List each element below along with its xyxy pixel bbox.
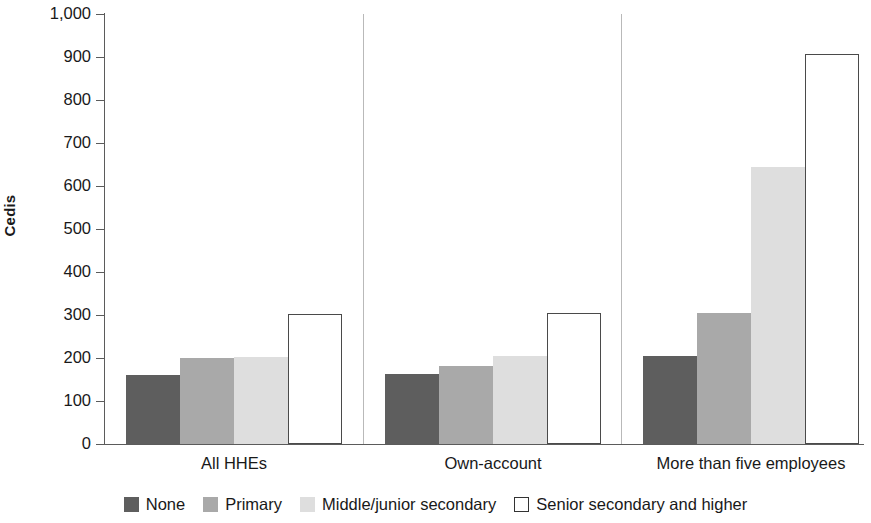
y-axis-tick-mark <box>96 315 104 316</box>
bar[interactable] <box>126 375 180 444</box>
y-axis-tick-label: 300 <box>63 304 91 324</box>
y-axis-tick-label: 900 <box>63 46 91 66</box>
legend-item[interactable]: Middle/junior secondary <box>300 494 496 514</box>
bar-group <box>126 14 342 444</box>
y-axis-tick-label: 600 <box>63 175 91 195</box>
plot-area: 01002003004005006007008009001,000 <box>104 14 864 444</box>
bar[interactable] <box>385 374 439 444</box>
y-axis-tick-mark <box>96 401 104 402</box>
y-axis-tick-mark <box>96 229 104 230</box>
legend-label: Senior secondary and higher <box>536 494 747 514</box>
x-axis-line <box>104 444 864 445</box>
legend-label: Middle/junior secondary <box>322 494 496 514</box>
bar-group <box>385 14 601 444</box>
x-axis-labels: All HHEsOwn-accountMore than five employ… <box>104 452 864 478</box>
bar-chart-figure: Cedis 01002003004005006007008009001,000 … <box>0 0 871 523</box>
y-axis-title: Cedis <box>1 186 18 246</box>
bar[interactable] <box>805 54 859 444</box>
y-axis-tick-label: 400 <box>63 261 91 281</box>
y-axis-tick-label: 1,000 <box>50 3 91 23</box>
y-axis-tick-mark <box>96 57 104 58</box>
bar[interactable] <box>751 167 805 444</box>
y-axis-tick-label: 200 <box>63 347 91 367</box>
bar[interactable] <box>697 313 751 444</box>
legend-swatch-icon <box>300 497 315 512</box>
bar[interactable] <box>643 356 697 444</box>
bar[interactable] <box>439 366 493 444</box>
y-axis-tick-mark <box>96 100 104 101</box>
y-axis-tick-mark <box>96 272 104 273</box>
bar[interactable] <box>288 314 342 444</box>
y-axis-tick-mark <box>96 143 104 144</box>
y-axis-tick-label: 700 <box>63 132 91 152</box>
y-axis-tick-mark <box>96 444 104 445</box>
bar[interactable] <box>180 358 234 444</box>
legend-swatch-icon <box>124 497 139 512</box>
legend-item[interactable]: Primary <box>203 494 282 514</box>
y-axis-tick-mark <box>96 186 104 187</box>
legend-label: None <box>146 494 185 514</box>
y-axis-tick-mark <box>96 14 104 15</box>
x-axis-label: More than five employees <box>643 452 859 474</box>
bar-group <box>643 14 859 444</box>
y-axis-tick-label: 800 <box>63 89 91 109</box>
bar[interactable] <box>493 356 547 444</box>
bars-layer <box>104 14 864 444</box>
x-axis-label: All HHEs <box>126 452 342 474</box>
bar[interactable] <box>234 357 288 444</box>
legend-item[interactable]: Senior secondary and higher <box>514 494 747 514</box>
group-divider <box>621 14 622 444</box>
legend-swatch-icon <box>203 497 218 512</box>
chart-legend: NonePrimaryMiddle/junior secondarySenior… <box>0 494 871 514</box>
bar[interactable] <box>547 313 601 444</box>
legend-label: Primary <box>225 494 282 514</box>
group-divider <box>363 14 364 444</box>
y-axis-tick-label: 500 <box>63 218 91 238</box>
y-axis-tick-label: 100 <box>63 390 91 410</box>
x-axis-label: Own-account <box>385 452 601 474</box>
y-axis-tick-mark <box>96 358 104 359</box>
legend-swatch-icon <box>514 497 529 512</box>
y-axis-tick-label: 0 <box>82 433 91 453</box>
legend-item[interactable]: None <box>124 494 185 514</box>
